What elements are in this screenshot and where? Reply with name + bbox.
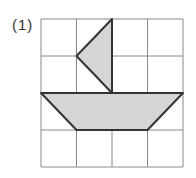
- sail-triangle: [77, 19, 113, 93]
- hull-trapezoid: [41, 93, 183, 130]
- boat-grid-figure: [0, 0, 196, 178]
